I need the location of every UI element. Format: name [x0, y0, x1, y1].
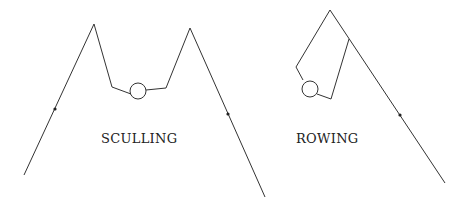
sweep-oar [330, 10, 445, 183]
rowing-label: ROWING [296, 131, 359, 146]
sculling-label: SCULLING [101, 131, 177, 146]
left-oarlock-dot [53, 107, 56, 110]
inner-arm [317, 39, 349, 99]
rower-head-sculling [130, 83, 146, 99]
rowing-oarlock-dot [398, 113, 401, 116]
left-scull-oar [24, 24, 131, 175]
outer-arm [296, 10, 330, 80]
rowing-diagram [0, 0, 467, 205]
rowing-figure [296, 10, 445, 183]
sculling-figure [24, 24, 265, 197]
right-oarlock-dot [226, 112, 229, 115]
right-scull-oar [146, 28, 265, 197]
rower-head-rowing [302, 81, 318, 97]
